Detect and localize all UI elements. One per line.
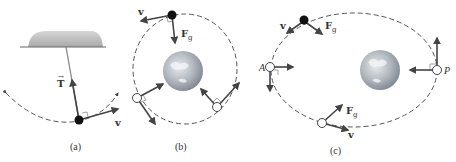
force-label-sub: g	[188, 34, 193, 42]
satellite-left	[133, 94, 142, 103]
panel-b: v F g (b)	[133, 6, 240, 153]
velocity-label: v	[114, 117, 122, 128]
tension-vector	[72, 80, 79, 120]
right-angle-mark	[82, 112, 88, 117]
satellite-top	[168, 11, 177, 20]
satellite-A	[266, 63, 275, 72]
pendulum-bob	[75, 116, 84, 125]
satellite-right	[213, 103, 222, 112]
panel-a: T → v (a)	[6, 31, 122, 153]
swing-arc	[6, 93, 118, 122]
caption-a: (a)	[70, 141, 81, 153]
point-P-label: P	[443, 65, 450, 76]
satellite-P	[433, 66, 442, 75]
ceiling	[28, 31, 103, 47]
point-A-label: A	[258, 62, 266, 73]
right-angle-mark	[213, 98, 221, 102]
orbit-diagram: T → v (a) v F g (b) v	[0, 0, 456, 162]
caption-b: (b)	[175, 141, 187, 153]
caption-c: (c)	[330, 145, 341, 157]
satellite-bottom	[318, 119, 327, 128]
force-label-bottom-sub: g	[353, 111, 358, 119]
velocity-label: v	[137, 6, 145, 17]
velocity-vector	[79, 109, 118, 120]
earth	[360, 50, 400, 90]
right-angle-mark	[273, 70, 278, 75]
earth	[163, 51, 203, 91]
force-label-top-sub: g	[332, 26, 337, 34]
velocity-label-bottom: v	[347, 129, 355, 140]
tension-arrow-accent: →	[58, 73, 64, 81]
satellite-top	[300, 16, 309, 25]
velocity-label-top: v	[279, 20, 287, 31]
panel-c: v F g A P F g v (c)	[258, 13, 450, 157]
